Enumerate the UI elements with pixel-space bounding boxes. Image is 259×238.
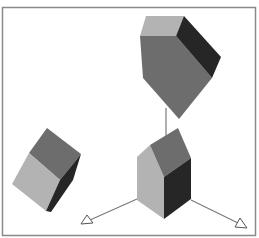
scene-canvas: [0, 0, 259, 238]
